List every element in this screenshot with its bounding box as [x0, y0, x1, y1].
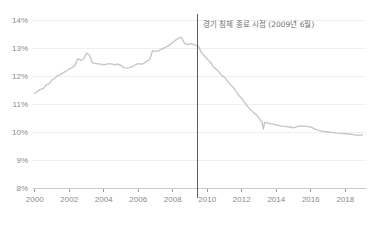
x-axis-label: 2004 — [95, 195, 113, 204]
x-axis-label: 2012 — [233, 195, 251, 204]
y-axis-label: 14% — [12, 16, 28, 25]
y-axis-label: 8% — [16, 184, 28, 193]
x-axis-label: 2010 — [198, 195, 216, 204]
y-axis-label: 11% — [13, 100, 28, 109]
line-chart: 8%9%10%11%12%13%14% 20002002200420062008… — [0, 0, 368, 225]
y-axis-label: 12% — [12, 72, 28, 81]
x-axis-label: 2000 — [26, 195, 44, 204]
x-axis-label: 2018 — [336, 195, 354, 204]
x-axis-label: 2014 — [267, 195, 285, 204]
x-axis-label: 2002 — [60, 195, 78, 204]
chart-background — [0, 0, 368, 225]
y-axis-label: 9% — [16, 156, 28, 165]
y-axis-label: 13% — [12, 44, 28, 53]
recession-end-label: 경기 침체 종료 시점 (2009년 6월) — [203, 19, 315, 29]
chart-container: 8%9%10%11%12%13%14% 20002002200420062008… — [0, 0, 368, 225]
y-axis-label: 10% — [12, 128, 28, 137]
x-axis-label: 2016 — [302, 195, 320, 204]
x-axis-label: 2006 — [129, 195, 147, 204]
x-axis-label: 2008 — [164, 195, 182, 204]
